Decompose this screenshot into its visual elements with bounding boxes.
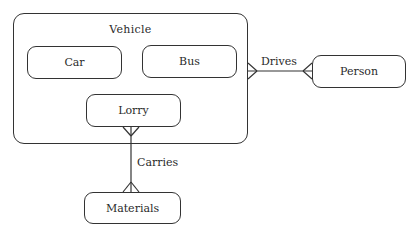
- relationship-lines: [0, 0, 412, 232]
- carries-label: Carries: [137, 156, 178, 169]
- drives-label: Drives: [261, 55, 297, 68]
